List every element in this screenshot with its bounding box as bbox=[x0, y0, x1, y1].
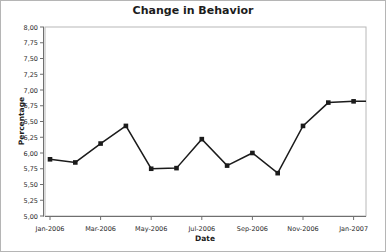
y-tick-label: 6,75 bbox=[24, 102, 38, 110]
x-tick-label: Nov-2006 bbox=[287, 225, 318, 233]
data-point-marker bbox=[48, 157, 53, 162]
data-point-marker bbox=[98, 141, 103, 146]
y-tick-label: 6,50 bbox=[24, 118, 38, 126]
x-tick-label: Jan-2006 bbox=[35, 225, 65, 233]
data-point-marker bbox=[351, 99, 356, 104]
y-tick-label: 7,00 bbox=[24, 87, 38, 95]
data-point-marker bbox=[149, 166, 154, 171]
y-tick-label: 7,25 bbox=[24, 71, 38, 79]
data-point-marker bbox=[200, 137, 205, 142]
data-point-marker bbox=[124, 124, 129, 129]
data-point-marker bbox=[301, 124, 306, 129]
y-tick-label: 6,25 bbox=[24, 134, 38, 142]
data-point-marker bbox=[275, 171, 280, 176]
data-point-marker bbox=[225, 163, 230, 168]
plot-area: 8,007,757,507,257,006,756,506,256,005,75… bbox=[1, 1, 386, 252]
data-point-marker bbox=[326, 100, 331, 105]
y-tick-label: 7,50 bbox=[24, 55, 38, 63]
data-point-marker bbox=[174, 166, 179, 171]
y-tick-label: 6,00 bbox=[24, 150, 38, 158]
x-tick-label: May-2006 bbox=[135, 225, 167, 233]
y-tick-label: 7,75 bbox=[24, 39, 38, 47]
plot-border bbox=[45, 27, 366, 216]
line-chart: Change in Behavior Percentage Date 8,007… bbox=[0, 0, 386, 252]
y-tick-label: 5,25 bbox=[24, 197, 38, 205]
x-tick-label: Jan-2007 bbox=[338, 225, 368, 233]
y-tick-label: 5,00 bbox=[24, 213, 38, 221]
x-tick-label: Mar-2006 bbox=[85, 225, 116, 233]
y-tick-label: 5,75 bbox=[24, 165, 38, 173]
x-tick-label: Sep-2006 bbox=[237, 225, 268, 233]
y-tick-label: 5,50 bbox=[24, 181, 38, 189]
x-tick-label: Jul-2006 bbox=[187, 225, 215, 233]
data-point-marker bbox=[250, 151, 255, 156]
y-tick-label: 8,00 bbox=[24, 24, 38, 32]
data-point-marker bbox=[73, 160, 78, 165]
